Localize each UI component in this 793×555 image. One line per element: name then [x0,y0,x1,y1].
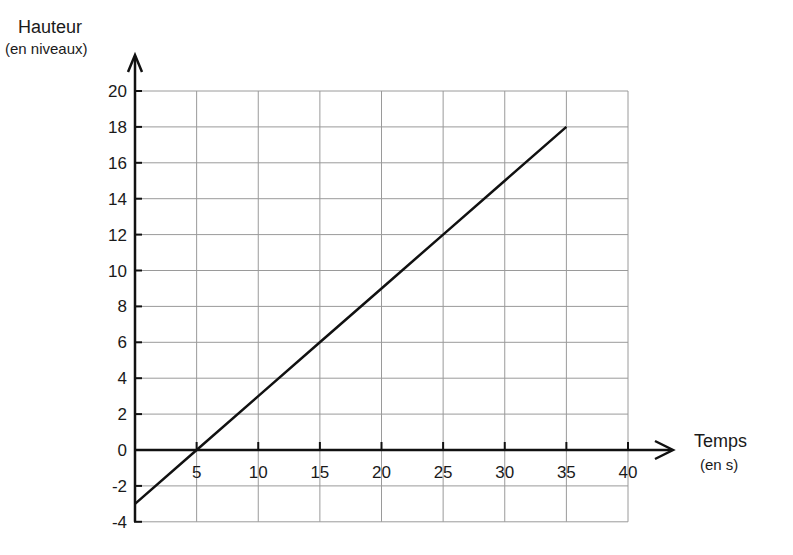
x-tick-label: 5 [192,463,201,482]
y-tick-label: -2 [112,477,127,496]
y-tick-label: 2 [118,405,127,424]
x-axis-unit: (en s) [700,456,738,473]
y-tick-label: 12 [108,226,127,245]
data-series [135,127,566,504]
y-tick-label: 6 [118,333,127,352]
y-tick-label: 20 [108,82,127,101]
y-tick-label: 4 [118,369,127,388]
y-tick-label: -4 [112,513,127,532]
line-chart: 20181614121086420-2-4510152025303540 Hau… [0,0,793,555]
x-tick-label: 35 [557,463,576,482]
y-axis-unit: (en niveaux) [5,40,88,57]
y-tick-label: 16 [108,154,127,173]
y-tick-label: 14 [108,190,127,209]
y-tick-label: 10 [108,262,127,281]
x-tick-label: 30 [495,463,514,482]
grid-lines [135,91,628,522]
x-axis-title: Temps [694,431,747,451]
x-tick-label: 40 [619,463,638,482]
y-tick-label: 0 [118,441,127,460]
series-line [135,127,566,504]
y-tick-label: 8 [118,297,127,316]
axes [128,55,673,522]
y-axis-title: Hauteur [18,17,82,37]
y-tick-label: 18 [108,118,127,137]
x-tick-label: 10 [249,463,268,482]
x-tick-label: 20 [372,463,391,482]
x-tick-label: 15 [310,463,329,482]
x-tick-label: 25 [434,463,453,482]
